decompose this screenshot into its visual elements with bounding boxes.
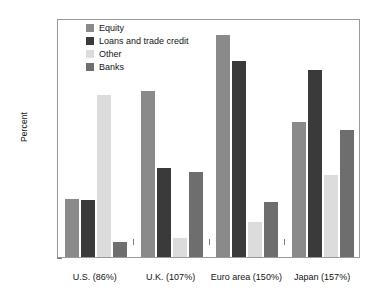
legend-swatch-icon: [86, 24, 94, 32]
legend-swatch-icon: [86, 50, 94, 58]
bar: [264, 202, 278, 257]
x-axis-group-separator: [133, 239, 134, 245]
legend-label: Other: [99, 49, 122, 59]
legend-item[interactable]: Other: [86, 48, 189, 60]
legend-label: Loans and trade credit: [99, 36, 189, 46]
bar: [97, 95, 111, 257]
bar: [308, 70, 322, 257]
bar: [324, 175, 338, 257]
bar: [248, 222, 262, 257]
bar-chart: Percent 010203040506070 U.S. (86%)U.K. (…: [0, 0, 373, 303]
legend-item[interactable]: Loans and trade credit: [86, 35, 189, 47]
y-axis-tick-mark: [57, 258, 62, 259]
bar: [340, 130, 354, 257]
bar: [65, 199, 79, 257]
x-axis-group-separator: [284, 239, 285, 245]
x-axis-label: Euro area (150%): [209, 272, 285, 282]
x-axis-label: Japan (157%): [284, 272, 360, 282]
x-axis-group-separator: [209, 239, 210, 245]
y-axis-title: Percent: [19, 97, 29, 157]
legend-item[interactable]: Banks: [86, 61, 189, 73]
bar: [141, 91, 155, 257]
legend-item[interactable]: Equity: [86, 22, 189, 34]
bar: [81, 200, 95, 257]
bar: [232, 61, 246, 257]
x-axis-label: U.K. (107%): [133, 272, 209, 282]
legend-label: Equity: [99, 23, 124, 33]
bar: [216, 35, 230, 257]
bar: [157, 168, 171, 257]
bar: [113, 242, 127, 257]
bar: [173, 238, 187, 257]
bar: [292, 122, 306, 257]
legend-swatch-icon: [86, 63, 94, 71]
legend-swatch-icon: [86, 37, 94, 45]
x-axis-label: U.S. (86%): [57, 272, 133, 282]
legend-label: Banks: [99, 62, 124, 72]
chart-legend: EquityLoans and trade creditOtherBanks: [86, 22, 189, 74]
bar: [189, 172, 203, 257]
